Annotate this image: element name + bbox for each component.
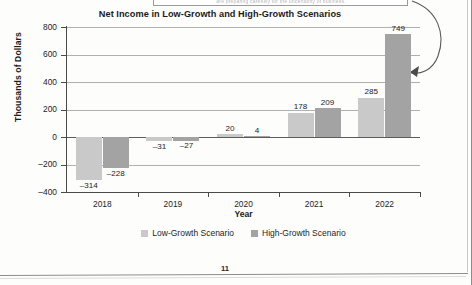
legend-swatch [141, 230, 148, 237]
bar-value-label: 4 [237, 126, 277, 135]
legend-swatch [251, 230, 258, 237]
y-axis-tick [61, 192, 67, 193]
y-axis-tick-label: 400 [13, 77, 57, 87]
gridline [67, 55, 420, 56]
y-axis-tick [61, 27, 67, 28]
y-axis-tick [61, 165, 67, 166]
bar-2021-high-growth [315, 108, 341, 137]
bar-value-label: –314 [69, 181, 109, 190]
legend-item-low-growth: Low-Growth Scenario [141, 228, 234, 238]
bar-2018-high-growth [103, 137, 129, 168]
y-axis-tick-label: 800 [13, 22, 57, 32]
plot-area: –314–228–31–27204178209285749 [67, 27, 420, 192]
cutoff-textbox-text: are preparing carefully for the uncertai… [157, 0, 405, 4]
x-axis-tick [208, 192, 209, 197]
bar-2021-low-growth [288, 113, 314, 137]
x-axis-tick-label-2018: 2018 [72, 199, 132, 209]
y-axis-tick [61, 55, 67, 56]
y-axis-tick-label: 0 [13, 132, 57, 142]
bar-2020-high-growth [244, 136, 270, 137]
x-axis-tick-label-2022: 2022 [355, 199, 415, 209]
bar-value-label: –228 [96, 169, 136, 178]
gridline [67, 27, 420, 28]
y-axis-tick-label: –400 [13, 187, 57, 197]
x-axis-tick-label-2019: 2019 [143, 199, 203, 209]
page-number: 11 [0, 264, 450, 273]
x-axis-tick [420, 192, 421, 197]
bar-value-label: 749 [378, 24, 418, 33]
y-axis-tick [61, 110, 67, 111]
y-axis-tick-label: –200 [13, 159, 57, 169]
scanned-page: are preparing carefully for the uncertai… [0, 0, 472, 285]
x-axis-tick [349, 192, 350, 197]
chart-title: Net Income in Low-Growth and High-Growth… [0, 9, 440, 19]
x-axis-tick-label-2021: 2021 [284, 199, 344, 209]
bar-2022-low-growth [358, 98, 384, 137]
bar-value-label: –27 [166, 141, 206, 150]
x-axis-tick [138, 192, 139, 197]
x-axis-tick-label-2020: 2020 [214, 199, 274, 209]
y-axis-tick [61, 137, 67, 138]
x-axis-tick [279, 192, 280, 197]
page-edge-bottom-inner [0, 276, 466, 279]
legend-label: High-Growth Scenario [262, 228, 346, 238]
x-axis-line [67, 192, 420, 193]
legend-label: Low-Growth Scenario [152, 228, 234, 238]
legend-item-high-growth: High-Growth Scenario [251, 228, 346, 238]
y-axis-tick-label: 600 [13, 49, 57, 59]
x-axis-label: Year [67, 209, 420, 219]
chart-legend: Low-Growth ScenarioHigh-Growth Scenario [67, 228, 420, 238]
y-axis-tick-label: 200 [13, 104, 57, 114]
bar-2022-high-growth [385, 34, 411, 137]
bar-2019-high-growth [173, 137, 199, 141]
y-axis-tick [61, 82, 67, 83]
gridline [67, 82, 420, 83]
bar-value-label: 209 [308, 98, 348, 107]
